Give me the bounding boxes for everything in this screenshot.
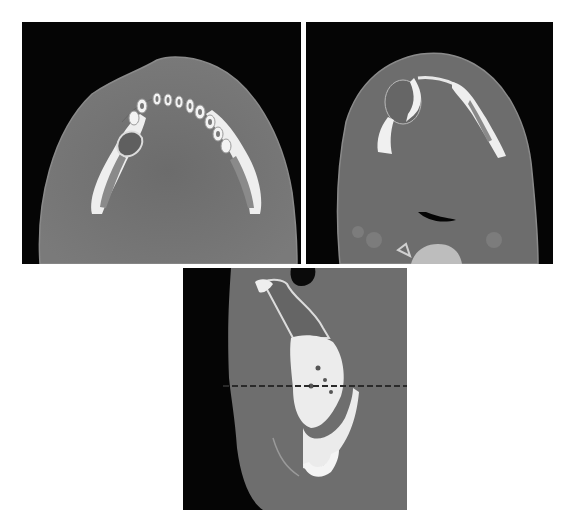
- ct-panel-axial-teeth: [22, 22, 301, 264]
- ct-coronal-image: [183, 268, 407, 510]
- ct-panel-coronal: [183, 268, 407, 510]
- ct-panel-axial-lesion: [306, 22, 553, 264]
- ct-axial-teeth-image: [22, 22, 301, 264]
- ct-axial-lesion-image: [306, 22, 553, 264]
